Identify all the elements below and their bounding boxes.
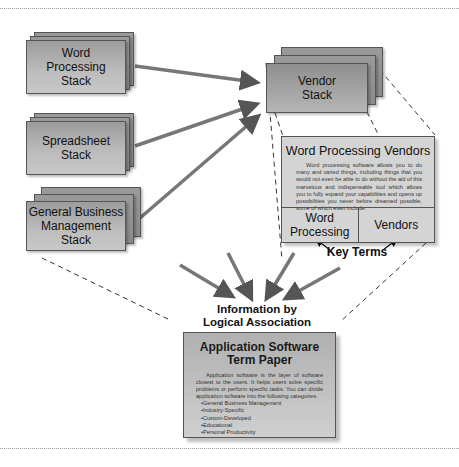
list-item: •General Business Management [201, 400, 323, 407]
arrow-spreadsheet-to-vendor [135, 105, 254, 146]
key-terms-label: Key Terms [326, 245, 388, 259]
arrow-business-to-vendor [140, 118, 256, 218]
association-label: Information byLogical Association [195, 303, 319, 329]
paper-body: Application software is the layer of sof… [184, 367, 335, 436]
paper-title: Application SoftwareTerm Paper [184, 341, 335, 367]
list-item: •Industry-Specific [201, 407, 323, 414]
stack-label: General BusinessManagementStack [26, 201, 126, 251]
arrow-word-to-vendor [135, 66, 254, 82]
term-paper-card: Application SoftwareTerm Paper Applicati… [183, 332, 336, 438]
stack-label: WordProcessingStack [26, 40, 126, 94]
stack-label: VendorStack [266, 63, 368, 113]
stack-label: SpreadsheetStack [26, 121, 126, 175]
association-arrows [180, 253, 340, 297]
stack-arrows [135, 66, 256, 218]
list-item: •Personal Productivity [201, 429, 323, 436]
list-item: •Custom-Developed [201, 415, 323, 422]
category-list: •General Business Management •Industry-S… [196, 400, 323, 435]
key-terms-row: WordProcessing Vendors [282, 207, 434, 242]
word-processing-vendors-panel: Word Processing Vendors Word processing … [281, 136, 435, 243]
term-vendors[interactable]: Vendors [358, 208, 435, 242]
list-item: •Educational [201, 422, 323, 429]
panel-title: Word Processing Vendors [282, 144, 434, 158]
term-word-processing[interactable]: WordProcessing [282, 208, 358, 242]
panel-body: Word processing software allows you to d… [282, 158, 434, 212]
